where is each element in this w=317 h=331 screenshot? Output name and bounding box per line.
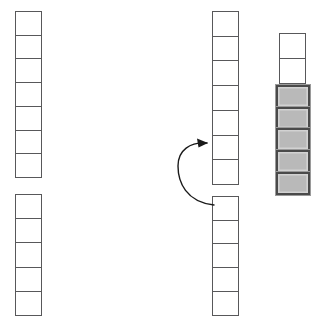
empty-block-cell[interactable]: [15, 291, 42, 317]
empty-block-cell[interactable]: [212, 135, 239, 161]
filled-block-cell[interactable]: [276, 172, 310, 195]
empty-block-cell[interactable]: [212, 36, 239, 62]
empty-block-cell[interactable]: [15, 11, 42, 36]
empty-block-cell[interactable]: [212, 291, 239, 316]
filled-block-cell[interactable]: [276, 150, 310, 173]
right-stack-empty-part[interactable]: [279, 33, 306, 84]
empty-block-cell[interactable]: [212, 85, 239, 111]
empty-block-cell[interactable]: [279, 58, 306, 84]
empty-block-cell[interactable]: [15, 82, 42, 107]
empty-block-cell[interactable]: [15, 35, 42, 60]
middle-lower-stack[interactable]: [212, 196, 239, 316]
empty-block-cell[interactable]: [212, 267, 239, 292]
transfer-arrow-layer: [0, 0, 317, 331]
empty-block-cell[interactable]: [15, 58, 42, 83]
left-upper-stack[interactable]: [15, 11, 42, 178]
empty-block-cell[interactable]: [15, 153, 42, 178]
empty-block-cell[interactable]: [212, 60, 239, 86]
empty-block-cell[interactable]: [15, 218, 42, 244]
filled-block-cell[interactable]: [276, 128, 310, 151]
middle-upper-stack[interactable]: [212, 11, 239, 185]
diagram-canvas: [0, 0, 317, 331]
filled-block-cell[interactable]: [276, 107, 310, 130]
empty-block-cell[interactable]: [212, 110, 239, 136]
empty-block-cell[interactable]: [279, 33, 306, 59]
filled-block-cell[interactable]: [276, 85, 310, 108]
empty-block-cell[interactable]: [212, 196, 239, 221]
empty-block-cell[interactable]: [15, 267, 42, 293]
empty-block-cell[interactable]: [212, 243, 239, 268]
empty-block-cell[interactable]: [212, 159, 239, 185]
transfer-arrow-curve: [178, 143, 214, 205]
transfer-arrow-head: [197, 139, 208, 148]
empty-block-cell[interactable]: [15, 194, 42, 220]
empty-block-cell[interactable]: [15, 130, 42, 155]
left-lower-stack[interactable]: [15, 194, 42, 316]
empty-block-cell[interactable]: [212, 11, 239, 37]
empty-block-cell[interactable]: [15, 242, 42, 268]
right-stack-filled-part[interactable]: [276, 85, 310, 195]
empty-block-cell[interactable]: [212, 220, 239, 245]
empty-block-cell[interactable]: [15, 106, 42, 131]
